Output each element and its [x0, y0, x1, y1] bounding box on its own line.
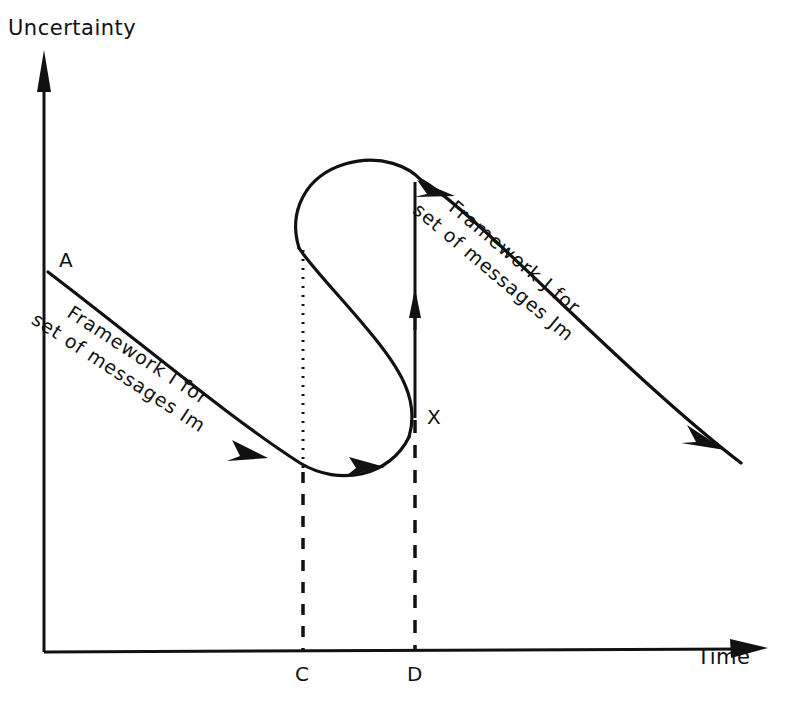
x-axis-title: Time: [697, 645, 750, 669]
y-axis-title: Uncertainty: [8, 16, 136, 40]
y-axis: [37, 50, 51, 652]
uncertainty-trajectory-curve: [48, 160, 741, 475]
tick-label-d: D: [407, 662, 423, 686]
x-axis: [44, 639, 768, 658]
tick-label-c: C: [295, 662, 309, 686]
point-label-a: A: [59, 248, 73, 272]
point-label-x: X: [427, 405, 441, 429]
figure-canvas: Uncertainty Time C D A X Framework I for…: [0, 0, 787, 717]
